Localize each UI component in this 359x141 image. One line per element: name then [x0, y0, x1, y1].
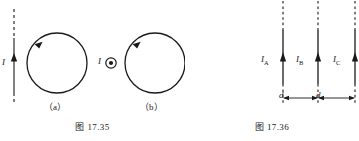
up-arrow-icon — [11, 53, 17, 62]
figure-caption-17-36: 图 17.36 — [185, 120, 359, 133]
dimension-BC-right-arrow-icon — [349, 96, 355, 100]
loop-direction-arrow-a — [35, 42, 43, 49]
current-label-panel-b: I — [98, 56, 101, 66]
wire-C — [352, 1, 358, 104]
current-label-IC: IC — [333, 54, 340, 66]
current-label-IA-subscript: A — [264, 59, 269, 66]
field-loop-circle-b — [125, 33, 185, 93]
panel-sublabel-b: （b） — [140, 100, 163, 113]
field-loop-circle-a — [27, 33, 87, 93]
current-label-panel-a: I — [2, 57, 5, 67]
panel-a-wire — [11, 9, 17, 104]
wire-B — [315, 1, 321, 104]
current-label-IB-subscript: B — [299, 59, 303, 66]
wire-C-up-arrow-icon — [352, 52, 358, 62]
dot-out-of-page-icon — [109, 61, 113, 65]
spacing-label-d2: d — [316, 90, 321, 100]
current-label-IC-subscript: C — [336, 59, 340, 66]
dimension-line-BC — [318, 96, 355, 100]
wire-A — [280, 1, 286, 104]
panel-sublabel-a: （a） — [44, 100, 66, 113]
dimension-line-AB — [283, 96, 318, 100]
figure-page: I I （a） （b） 图 17.35 — [0, 0, 359, 141]
panel-b-loop — [125, 33, 185, 93]
wire-B-up-arrow-icon — [315, 52, 321, 62]
spacing-label-d1: d — [279, 90, 284, 100]
panel-a-loop — [27, 33, 87, 93]
wire-A-up-arrow-icon — [280, 52, 286, 62]
current-label-IB: IB — [296, 54, 303, 66]
figure-caption-17-35: 图 17.35 — [0, 120, 185, 133]
loop-direction-arrow-b — [133, 42, 141, 49]
current-label-IA: IA — [261, 54, 269, 66]
panel-b-current-symbol — [106, 58, 116, 68]
